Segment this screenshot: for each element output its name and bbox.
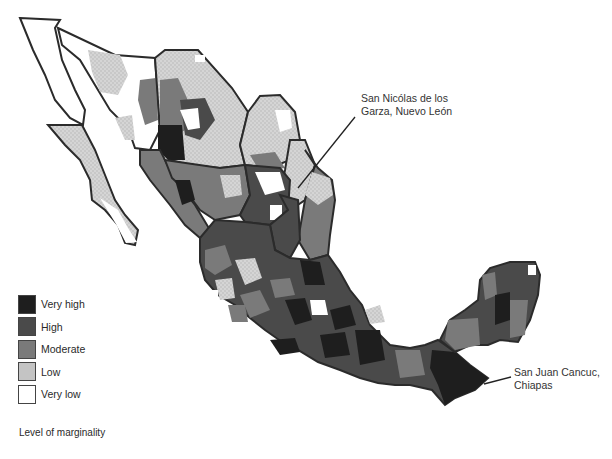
- swatch-very-low: [18, 385, 36, 404]
- legend-item-moderate: Moderate: [18, 338, 85, 361]
- legend: Very high High Moderate Low Very low: [18, 293, 85, 406]
- swatch-low: [18, 362, 36, 381]
- legend-label: Moderate: [41, 343, 85, 355]
- callout-san-juan-line2: Chiapas: [514, 379, 600, 392]
- legend-label: Very low: [41, 388, 81, 400]
- region-baja-california: [20, 18, 85, 125]
- callout-san-nicolas-line2: Garza, Nuevo León: [361, 105, 452, 118]
- legend-label: Very high: [41, 298, 85, 310]
- legend-item-very-high: Very high: [18, 293, 85, 316]
- swatch-very-high: [18, 295, 36, 314]
- callout-san-nicolas: San Nicólas de los Garza, Nuevo León: [361, 92, 452, 118]
- callout-san-juan-cancuc: San Juan Cancuc, Chiapas: [514, 366, 600, 392]
- swatch-moderate: [18, 340, 36, 359]
- legend-label: Low: [41, 366, 60, 378]
- legend-title: Level of marginality: [19, 427, 105, 438]
- callout-san-juan-line1: San Juan Cancuc,: [514, 366, 600, 379]
- legend-item-high: High: [18, 316, 85, 339]
- legend-item-low: Low: [18, 361, 85, 384]
- legend-label: High: [41, 321, 63, 333]
- legend-item-very-low: Very low: [18, 383, 85, 406]
- callout-san-nicolas-line1: San Nicólas de los: [361, 92, 452, 105]
- swatch-high: [18, 317, 36, 336]
